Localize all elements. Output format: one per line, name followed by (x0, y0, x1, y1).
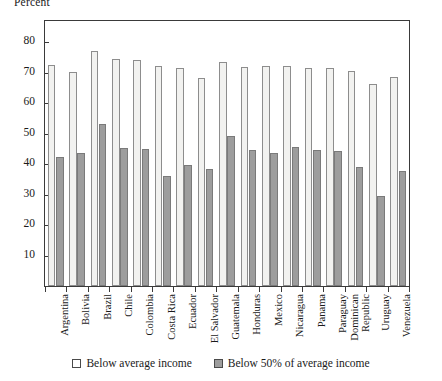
bar-group (216, 21, 237, 286)
legend-label: Below average income (86, 357, 191, 369)
x-axis-tick-mark (195, 287, 196, 292)
x-axis-tick-mark (45, 287, 46, 292)
bar-below-average-income (390, 77, 398, 286)
bar-below-average-income (369, 84, 377, 286)
x-axis-tick-mark (281, 287, 282, 292)
bar-group (195, 21, 216, 286)
y-axis-tick-label: 60 (9, 95, 35, 107)
x-axis-tick-mark (409, 287, 410, 292)
bar-below-average-income (241, 67, 249, 286)
x-axis-tick-mark (66, 287, 67, 292)
chart-legend: Below average incomeBelow 50% of average… (0, 357, 442, 369)
x-axis-label: Ecuador (188, 294, 199, 329)
x-axis-tick-mark (302, 287, 303, 292)
bar-below-50pct-average-income (56, 157, 64, 286)
y-axis-tick-label: 40 (9, 156, 35, 168)
bar-below-50pct-average-income (227, 136, 235, 286)
x-axis-label: Colombia (145, 294, 156, 335)
legend-item: Below average income (72, 357, 191, 369)
x-axis-tick-mark (238, 287, 239, 292)
bar-below-average-income (219, 62, 227, 286)
bar-below-50pct-average-income (163, 176, 171, 286)
legend-label: Below 50% of average income (228, 357, 370, 369)
bar-below-50pct-average-income (292, 147, 300, 286)
x-axis-label: El Salvador (210, 294, 221, 343)
x-axis-label: Honduras (252, 294, 263, 335)
x-axis-label: Costa Rica (167, 294, 178, 340)
x-axis-label: Chile (124, 294, 135, 317)
bar-below-average-income (305, 68, 313, 286)
y-axis-tick-label: 30 (9, 187, 35, 199)
bar-below-average-income (155, 66, 163, 286)
bar-below-50pct-average-income (313, 150, 321, 286)
x-axis-label: Uruguay (381, 294, 392, 331)
x-axis-tick-mark (152, 287, 153, 292)
bar-below-50pct-average-income (249, 150, 257, 286)
bar-group (366, 21, 387, 286)
bar-below-average-income (133, 60, 141, 286)
bar-below-50pct-average-income (184, 165, 192, 286)
y-axis-tick-label: 10 (9, 248, 35, 260)
bar-below-average-income (262, 66, 270, 286)
bar-below-50pct-average-income (206, 169, 214, 286)
bar-below-average-income (198, 78, 206, 286)
bar-below-average-income (348, 71, 356, 286)
x-axis-tick-mark (131, 287, 132, 292)
x-axis-tick-mark (259, 287, 260, 292)
x-axis-label: Venezuela (402, 294, 413, 337)
bar-below-50pct-average-income (99, 124, 107, 286)
bar-group (345, 21, 366, 286)
x-axis-tick-mark (216, 287, 217, 292)
bar-group (88, 21, 109, 286)
legend-item: Below 50% of average income (214, 357, 370, 369)
x-axis-label: Paraguay (338, 294, 349, 333)
bar-below-average-income (69, 72, 77, 286)
bar-group (388, 21, 409, 286)
legend-swatch-below-average-income (72, 359, 81, 368)
bar-group (259, 21, 280, 286)
bar-group (173, 21, 194, 286)
x-axis-label: Guatemala (231, 294, 242, 339)
bar-group (323, 21, 344, 286)
x-axis-label: Argentina (60, 294, 71, 336)
x-axis-label-line2: Republic (361, 294, 372, 341)
x-axis-label: DominicanRepublic (350, 294, 371, 341)
bar-group (66, 21, 87, 286)
bar-below-50pct-average-income (356, 167, 364, 286)
bar-below-50pct-average-income (120, 148, 128, 286)
bar-group (152, 21, 173, 286)
bar-group (131, 21, 152, 286)
x-axis-tick-mark (109, 287, 110, 292)
x-axis-label: Panama (317, 294, 328, 327)
bar-below-average-income (112, 59, 120, 286)
y-axis-title: Percent (14, 0, 50, 8)
bar-below-50pct-average-income (377, 196, 385, 286)
bar-chart: Percent 1020304050607080 ArgentinaBolivi… (0, 0, 442, 381)
y-axis-tick-label: 70 (9, 65, 35, 77)
bar-below-50pct-average-income (270, 153, 278, 286)
x-axis-tick-mark (88, 287, 89, 292)
bar-below-average-income (283, 66, 291, 286)
bar-group (302, 21, 323, 286)
bar-group (281, 21, 302, 286)
y-axis-tick-label: 20 (9, 217, 35, 229)
x-axis-tick-mark (366, 287, 367, 292)
bar-below-average-income (176, 68, 184, 286)
bar-group (109, 21, 130, 286)
x-axis-tick-mark (388, 287, 389, 292)
bar-below-average-income (326, 68, 334, 286)
bars-layer (45, 21, 409, 286)
bar-group (45, 21, 66, 286)
bar-below-50pct-average-income (77, 153, 85, 286)
x-axis-tick-mark (323, 287, 324, 292)
x-axis-label: Mexico (274, 294, 285, 326)
x-axis-label: Brazil (103, 294, 114, 320)
y-axis-tick-label: 50 (9, 126, 35, 138)
bar-below-50pct-average-income (334, 151, 342, 286)
legend-swatch-below-50pct-average-income (214, 359, 223, 368)
bar-below-average-income (48, 65, 56, 286)
x-axis-tick-mark (345, 287, 346, 292)
x-axis-label: Bolivia (81, 294, 92, 325)
x-axis-label: Nicaragua (295, 294, 306, 337)
bar-group (238, 21, 259, 286)
